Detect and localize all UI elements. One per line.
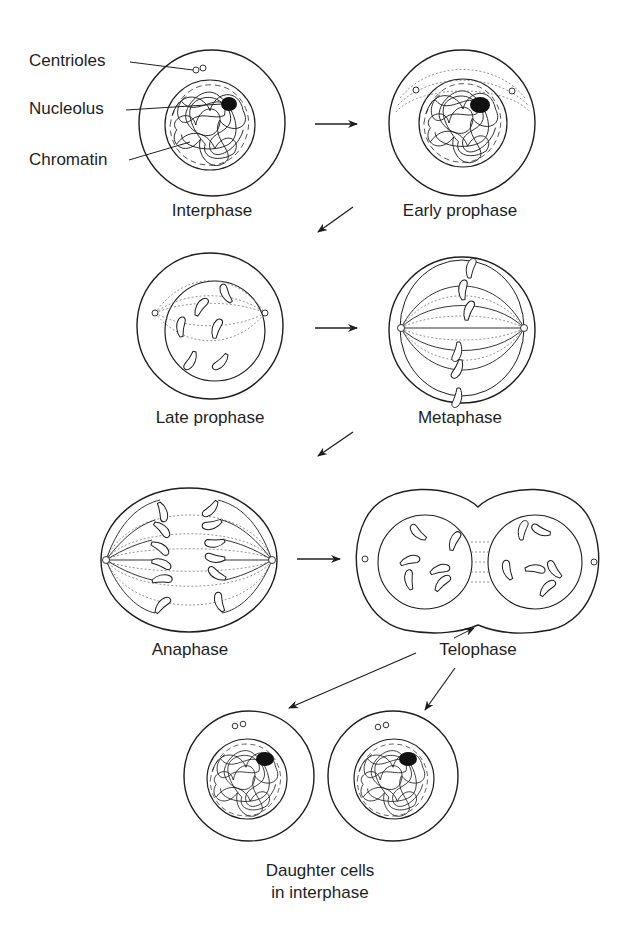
centriole-shape [193, 67, 199, 73]
stage-label-late-prophase: Late prophase [130, 408, 290, 427]
stage-label-daughter-cells-line2: in interphase [220, 883, 420, 902]
stage-label-anaphase: Anaphase [130, 640, 250, 659]
late-prophase-cell [137, 253, 283, 399]
anaphase-cell [101, 488, 277, 632]
arrow-early-prophase-to-late-prophase [318, 207, 353, 232]
arrow-telophase-to-daughter-right [425, 668, 455, 710]
stage-label-interphase: Interphase [162, 201, 262, 220]
telophase-cell [356, 489, 598, 632]
nucleolus-shape [221, 97, 237, 111]
stage-label-telophase: Telophase [418, 640, 538, 659]
callout-chromatin-label: Chromatin [29, 150, 107, 169]
callout-nucleolus-label: Nucleolus [29, 99, 104, 118]
mitosis-diagram [0, 0, 628, 927]
daughter-cell-left [184, 711, 314, 841]
stage-label-metaphase: Metaphase [400, 408, 520, 427]
arrow-metaphase-to-anaphase [318, 432, 353, 456]
interphase-cell [126, 50, 285, 196]
stage-label-daughter-cells-line1: Daughter cells [220, 861, 420, 880]
daughter-cell-right [328, 711, 458, 841]
early-prophase-cell [389, 50, 535, 196]
stage-label-early-prophase: Early prophase [385, 201, 535, 220]
callout-centrioles-label: Centrioles [29, 51, 106, 70]
arrow-telophase-to-daughter-left [289, 653, 416, 708]
metaphase-cell [389, 257, 535, 407]
